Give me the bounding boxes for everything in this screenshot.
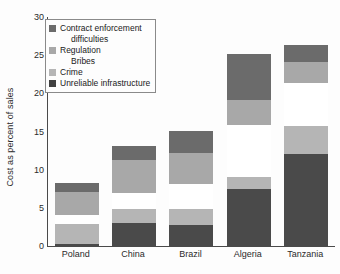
legend-label: difficulties [71, 34, 108, 45]
bar-group-tanzania[interactable] [284, 17, 328, 246]
x-axis-tick-label: Poland [54, 249, 98, 259]
bar-segment[interactable] [169, 209, 213, 225]
stacked-bar-chart: Cost as percent of sales 051015202530 Po… [0, 0, 340, 274]
chart-legend: Contract enforcementdifficultiesRegulati… [45, 19, 156, 93]
bar-segment[interactable] [227, 189, 271, 246]
y-axis-tick-label: 30 [20, 12, 44, 22]
bar-segment[interactable] [55, 244, 99, 246]
x-axis-tick-label: Brazil [168, 249, 212, 259]
y-axis-tick-labels: 051015202530 [20, 0, 44, 274]
bar-segment[interactable] [227, 125, 271, 176]
legend-item: Unreliable infrastructure [49, 78, 150, 89]
bar-segment[interactable] [169, 225, 213, 246]
x-axis-tick-label: China [111, 249, 155, 259]
y-axis-tick-label: 20 [20, 88, 44, 98]
x-axis-tick-label: Algeria [226, 249, 270, 259]
x-axis-tick-label: Tanzania [283, 249, 327, 259]
legend-swatch-icon [49, 69, 56, 76]
legend-swatch-icon [49, 36, 56, 43]
bar-segment[interactable] [112, 160, 156, 193]
legend-label: Crime [60, 67, 83, 78]
legend-swatch-icon [49, 58, 56, 65]
bar-group-algeria[interactable] [227, 17, 271, 246]
bar-segment[interactable] [55, 183, 99, 192]
y-axis-title: Cost as percent of sales [0, 0, 20, 274]
y-axis-tick-label: 15 [20, 127, 44, 137]
legend-swatch-icon [49, 80, 56, 87]
legend-item: Bribes [49, 56, 150, 67]
legend-item: Regulation [49, 45, 150, 56]
bar-segment[interactable] [284, 62, 328, 83]
bar-segment[interactable] [284, 83, 328, 127]
y-axis-tick-label: 0 [20, 241, 44, 251]
y-axis-tick-label: 25 [20, 50, 44, 60]
bar-segment[interactable] [227, 177, 271, 189]
bar-segment[interactable] [112, 146, 156, 160]
legend-swatch-icon [49, 25, 56, 32]
bar-segment[interactable] [112, 193, 156, 210]
x-axis-tick-labels: PolandChinaBrazilAlgeriaTanzania [47, 249, 334, 267]
bar-segment[interactable] [55, 224, 99, 244]
bar-segment[interactable] [112, 223, 156, 246]
bar-segment[interactable] [227, 54, 271, 101]
bar-segment[interactable] [55, 215, 99, 224]
legend-swatch-icon [49, 47, 56, 54]
bar-segment[interactable] [169, 153, 213, 184]
bar-segment[interactable] [55, 192, 99, 215]
legend-label: Bribes [71, 56, 95, 67]
bar-segment[interactable] [227, 100, 271, 125]
bar-segment[interactable] [169, 131, 213, 153]
y-axis-tick-label: 10 [20, 165, 44, 175]
legend-label: Regulation [60, 45, 101, 56]
legend-item: Crime [49, 67, 150, 78]
bar-segment[interactable] [284, 45, 328, 62]
bar-group-brazil[interactable] [169, 17, 213, 246]
bar-segment[interactable] [169, 184, 213, 209]
bar-segment[interactable] [284, 154, 328, 246]
legend-item: difficulties [49, 34, 150, 45]
y-axis-tick-label: 5 [20, 203, 44, 213]
bar-segment[interactable] [112, 209, 156, 223]
legend-label: Unreliable infrastructure [60, 78, 150, 89]
legend-item: Contract enforcement [49, 23, 150, 34]
legend-label: Contract enforcement [60, 23, 142, 34]
bar-segment[interactable] [284, 126, 328, 153]
